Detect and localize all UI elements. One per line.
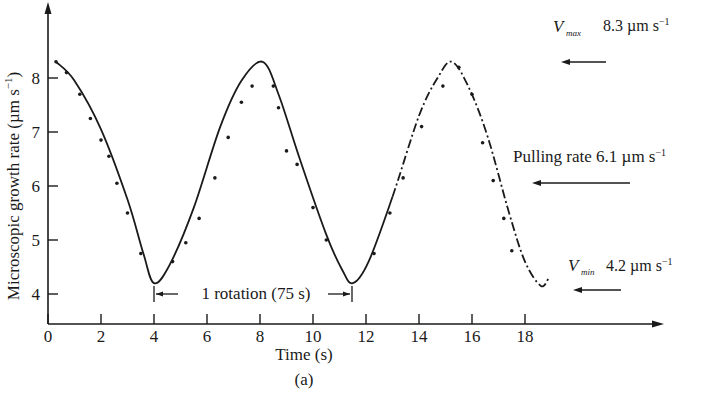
data-point [491, 179, 495, 183]
data-point [126, 211, 130, 215]
data-point [388, 211, 392, 215]
data-point [372, 252, 376, 256]
vmin-subscript: min [581, 267, 595, 277]
panel-label: (a) [295, 370, 314, 389]
data-point [213, 176, 217, 180]
data-point [295, 163, 299, 167]
vmin-symbol: V [568, 256, 581, 275]
data-point [401, 176, 405, 180]
data-point [420, 125, 424, 129]
y-tick-label: 7 [32, 123, 41, 142]
vmax-value: 8.3 µm s−1 [603, 16, 670, 35]
data-point [481, 141, 485, 145]
vmax-arrowhead [561, 59, 570, 65]
curve-solid [56, 61, 393, 283]
data-point [107, 155, 111, 159]
data-point [226, 136, 230, 140]
vmax-annotation: V max 8.3 µm s−1 [553, 16, 670, 65]
measured-points [54, 60, 513, 263]
y-axis-label: Microscopic growth rate (µm s−1) [2, 72, 23, 300]
data-point [89, 117, 93, 121]
x-tick-label: 0 [44, 327, 53, 346]
rotation-right-arrowhead [343, 292, 350, 297]
data-point [78, 92, 82, 96]
x-tick-label: 14 [411, 327, 429, 346]
x-tick-label: 16 [464, 327, 481, 346]
x-tick-label: 18 [517, 327, 534, 346]
x-ticks: 024681012141618 [44, 314, 534, 346]
data-point [197, 217, 201, 221]
data-point [99, 138, 103, 142]
data-point [272, 84, 276, 88]
y-axis-arrowhead [45, 2, 52, 14]
growth-rate-curve [56, 61, 549, 286]
vmin-annotation: V min 4.2 µm s−1 [568, 256, 673, 293]
data-point [171, 260, 175, 264]
data-point [54, 60, 58, 64]
data-point [311, 206, 315, 210]
y-tick-label: 5 [32, 231, 41, 250]
y-tick-label: 6 [32, 177, 41, 196]
x-tick-label: 6 [203, 327, 212, 346]
x-axis-arrowhead [652, 321, 664, 328]
vmax-symbol: V [553, 17, 566, 36]
y-tick-label: 8 [32, 69, 41, 88]
rotation-left-arrowhead [156, 292, 163, 297]
x-tick-label: 2 [97, 327, 106, 346]
data-point [65, 71, 69, 75]
vmax-subscript: max [566, 28, 581, 38]
rotation-label: 1 rotation (75 s) [201, 284, 310, 303]
x-tick-label: 4 [150, 327, 159, 346]
data-point [277, 106, 281, 110]
pulling-rate-annotation: Pulling rate 6.1 µm s−1 [513, 147, 666, 186]
data-point [184, 241, 188, 245]
data-point [115, 182, 119, 186]
x-axis-label: Time (s) [275, 345, 332, 364]
x-tick-label: 8 [256, 327, 265, 346]
x-tick-label: 10 [305, 327, 322, 346]
rotation-span-annotation: 1 rotation (75 s) [154, 284, 352, 303]
data-point [502, 217, 506, 221]
pulling-rate-value: Pulling rate 6.1 µm s−1 [513, 147, 666, 166]
data-point [441, 84, 445, 88]
data-point [139, 252, 143, 256]
data-point [250, 84, 254, 88]
data-point [457, 65, 461, 69]
data-point [240, 101, 244, 105]
chart: 024681012141618 45678 Microscopic growth… [0, 0, 711, 396]
vmin-arrowhead [573, 287, 582, 293]
data-point [510, 249, 514, 253]
data-point [285, 149, 289, 153]
y-ticks: 45678 [32, 69, 59, 304]
x-tick-label: 12 [358, 327, 375, 346]
pulling-rate-arrowhead [532, 180, 541, 186]
vmin-value: 4.2 µm s−1 [606, 256, 673, 275]
y-tick-label: 4 [32, 285, 41, 304]
data-point [325, 238, 329, 242]
data-point [470, 92, 474, 96]
